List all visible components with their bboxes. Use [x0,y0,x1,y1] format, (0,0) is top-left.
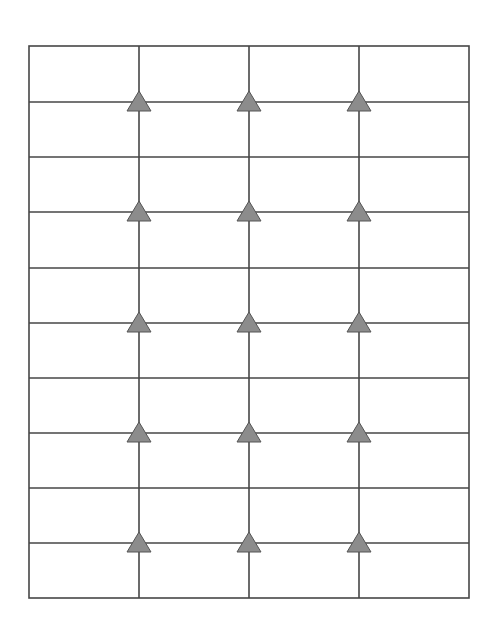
triangle-marker-icon [127,201,151,221]
triangle-marker-icon [237,422,261,442]
triangle-marker-icon [347,91,371,111]
triangle-marker-icon [347,312,371,332]
triangle-marker-icon [127,91,151,111]
triangle-marker-icon [237,201,261,221]
triangle-marker-icon [237,532,261,552]
triangle-marker-icon [127,532,151,552]
grid-diagram [0,0,489,632]
triangle-marker-icon [347,201,371,221]
triangle-marker-icon [127,422,151,442]
triangle-marker-icon [347,422,371,442]
grid-diagram-svg [0,0,489,632]
triangle-marker-icon [237,312,261,332]
triangle-marker-icon [237,91,261,111]
triangle-marker-icon [127,312,151,332]
triangle-marker-icon [347,532,371,552]
